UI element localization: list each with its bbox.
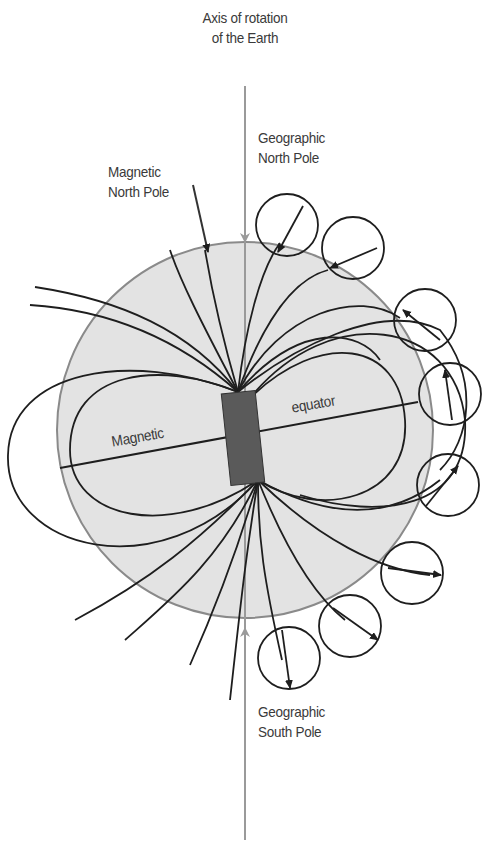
geo-north-label-line1: Geographic	[258, 128, 325, 147]
magnetic-field-diagram: Axis of rotation of the Earth Geographic…	[0, 0, 494, 842]
compass-5	[417, 454, 479, 516]
geo-south-label-line1: Geographic	[258, 702, 325, 721]
axis-label-line1: Axis of rotation	[182, 8, 308, 27]
compass-8	[258, 627, 320, 689]
compass-2	[322, 217, 384, 279]
diagram-canvas	[0, 0, 494, 842]
axis-label-line2: of the Earth	[182, 28, 308, 47]
magnetic-north-pointer	[193, 185, 208, 252]
geo-north-label-line2: North Pole	[258, 148, 319, 167]
mag-north-label-line1: Magnetic	[108, 162, 161, 181]
compass-7	[319, 595, 381, 657]
geo-south-label-line2: South Pole	[258, 722, 321, 741]
mag-north-label-line2: North Pole	[108, 182, 169, 201]
